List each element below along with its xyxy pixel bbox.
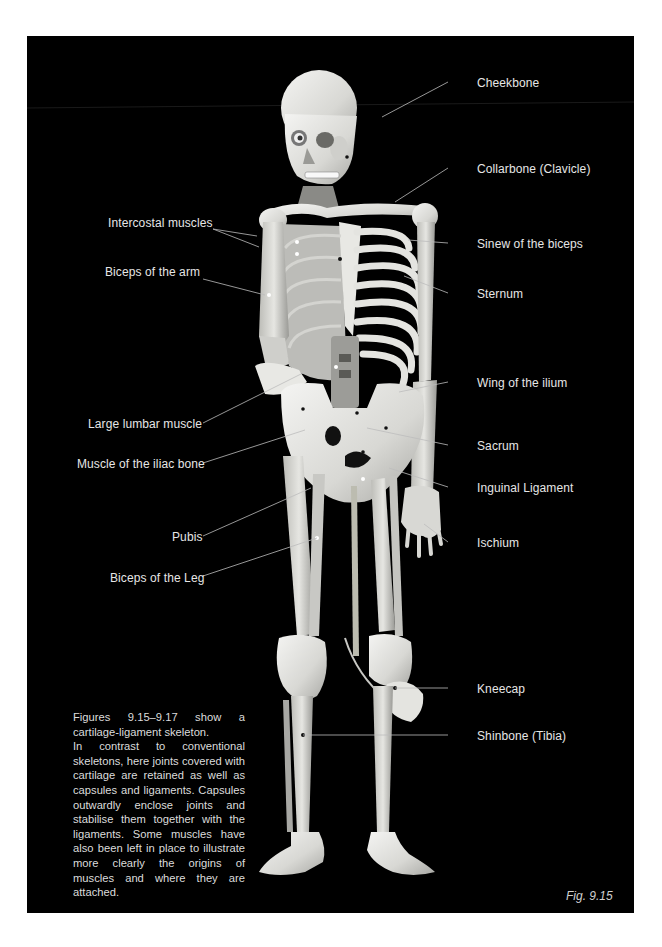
label-biceps-of-the-leg: Biceps of the Leg: [110, 571, 204, 585]
label-biceps-of-the-arm: Biceps of the arm: [105, 265, 200, 279]
caption-intro: Figures 9.15–9.17 show a cartilage-ligam…: [73, 710, 245, 739]
label-sacrum: Sacrum: [477, 439, 519, 453]
skull: [281, 70, 357, 184]
label-wing-of-the-ilium: Wing of the ilium: [477, 376, 567, 390]
caption-body: In contrast to conventional skeletons, h…: [73, 739, 245, 900]
label-inguinal-ligament: Inguinal Ligament: [477, 481, 573, 495]
label-muscle-of-the-iliac-bone: Muscle of the iliac bone: [77, 457, 205, 471]
label-intercostal-muscles: Intercostal muscles: [108, 216, 213, 230]
figure-number: Fig. 9.15: [566, 889, 613, 903]
label-pubis: Pubis: [172, 530, 203, 544]
label-cheekbone: Cheekbone: [477, 76, 539, 90]
label-kneecap: Kneecap: [477, 682, 525, 696]
label-large-lumbar-muscle: Large lumbar muscle: [88, 417, 202, 431]
figure-panel: Intercostal muscles Biceps of the arm La…: [27, 36, 634, 913]
label-ischium: Ischium: [477, 536, 519, 550]
label-collarbone: Collarbone (Clavicle): [477, 162, 590, 176]
figure-caption: Figures 9.15–9.17 show a cartilage-ligam…: [73, 710, 245, 900]
label-sinew-of-the-biceps: Sinew of the biceps: [477, 237, 583, 251]
label-sternum: Sternum: [477, 287, 523, 301]
label-shinbone: Shinbone (Tibia): [477, 729, 566, 743]
